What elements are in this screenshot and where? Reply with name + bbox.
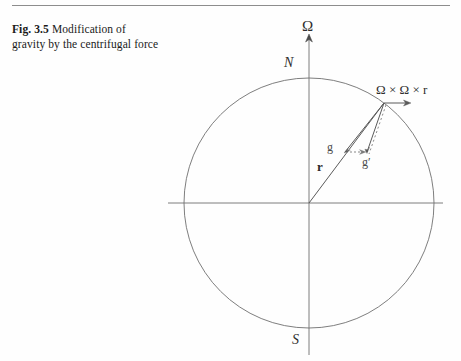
south-pole-label: S xyxy=(292,332,299,348)
effective-gravity-vector-line xyxy=(367,103,384,152)
figure-page: Fig. 3.5 Modification of gravity by the … xyxy=(0,0,461,361)
rotation-axis-label: Ω xyxy=(302,18,313,35)
radius-vector-label: r xyxy=(317,159,323,175)
gravity-label: g xyxy=(327,140,333,155)
g-to-gprime-arrowhead xyxy=(360,150,367,155)
effective-gravity-label: g′ xyxy=(362,155,371,170)
radius-vector-line xyxy=(309,103,384,203)
sphere-diagram xyxy=(0,0,461,361)
north-pole-label: N xyxy=(284,55,293,71)
centrifugal-term-label: Ω × Ω × r xyxy=(376,82,427,98)
